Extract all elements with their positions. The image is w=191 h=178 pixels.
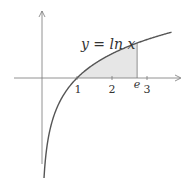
- ln-graph: 12e3 y = ln x: [0, 0, 191, 178]
- x-tick-label-2: 2: [109, 83, 116, 96]
- ln-curve: [43, 32, 172, 178]
- x-tick-label-e: e: [134, 78, 141, 91]
- x-tick-label-3: 3: [144, 83, 151, 96]
- x-tick-label-1: 1: [75, 83, 82, 96]
- curve-label: y = ln x: [80, 36, 135, 52]
